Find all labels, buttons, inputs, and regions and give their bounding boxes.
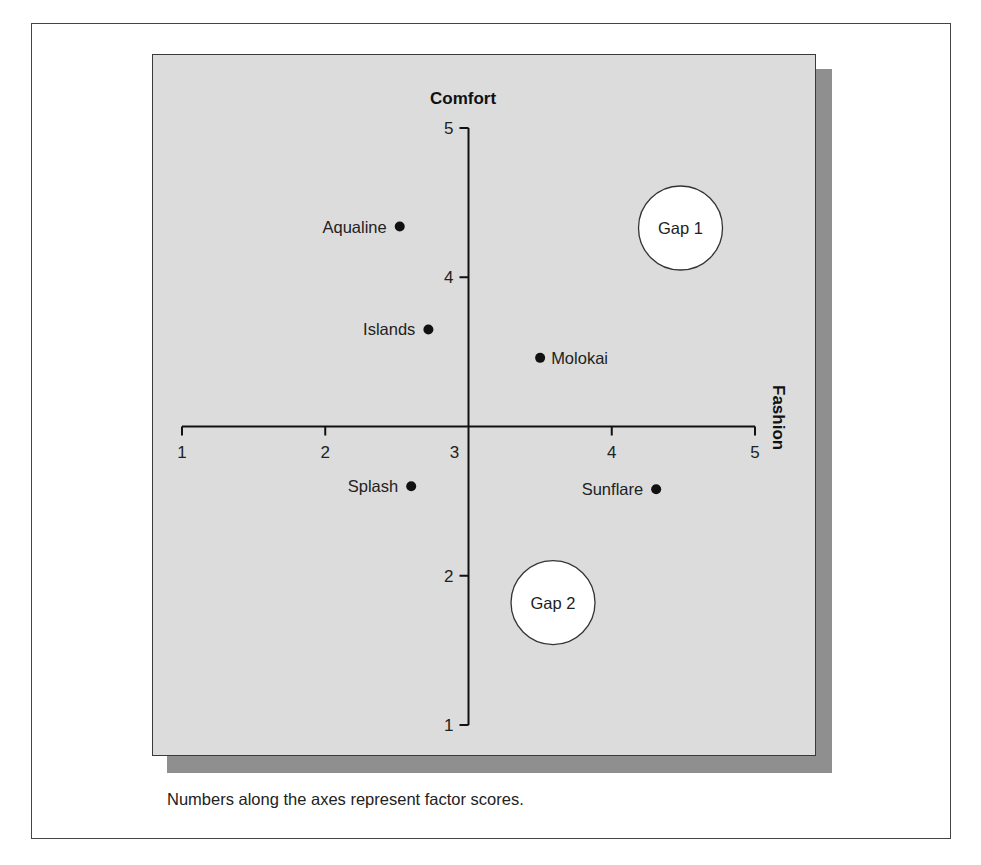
point-marker <box>651 484 661 494</box>
point-label: Sunflare <box>582 480 643 498</box>
gap-circle: Gap 2 <box>511 561 595 645</box>
y-axis-title: Comfort <box>430 89 496 108</box>
x-tick-label: 3 <box>450 443 459 462</box>
data-point: Splash <box>348 477 416 495</box>
point-marker <box>535 353 545 363</box>
point-label: Molokai <box>551 349 608 367</box>
data-point: Islands <box>363 320 433 338</box>
x-tick-label: 1 <box>177 443 186 462</box>
data-point: Aqualine <box>323 218 405 236</box>
point-label: Aqualine <box>323 218 387 236</box>
figure-caption: Numbers along the axes represent factor … <box>167 790 524 809</box>
y-tick-label: 5 <box>444 119 453 138</box>
x-axis-title: Fashion <box>769 385 788 450</box>
gap-annotations: Gap 1Gap 2 <box>511 186 722 645</box>
gap-label: Gap 2 <box>531 594 576 612</box>
x-tick-label: 5 <box>750 443 759 462</box>
point-label: Islands <box>363 320 415 338</box>
gap-circle: Gap 1 <box>639 186 723 270</box>
x-tick-label: 4 <box>607 443 616 462</box>
y-tick-label: 4 <box>444 268 453 287</box>
point-marker <box>423 324 433 334</box>
gap-label: Gap 1 <box>658 219 703 237</box>
y-tick-label: 1 <box>444 716 453 735</box>
y-tick-label: 2 <box>444 567 453 586</box>
perceptual-map: 123451245 Gap 1Gap 2 AqualineIslandsMolo… <box>0 0 981 865</box>
point-label: Splash <box>348 477 398 495</box>
x-tick-label: 2 <box>321 443 330 462</box>
data-point: Sunflare <box>582 480 661 498</box>
point-marker <box>395 222 405 232</box>
point-marker <box>406 481 416 491</box>
data-point: Molokai <box>535 349 608 367</box>
